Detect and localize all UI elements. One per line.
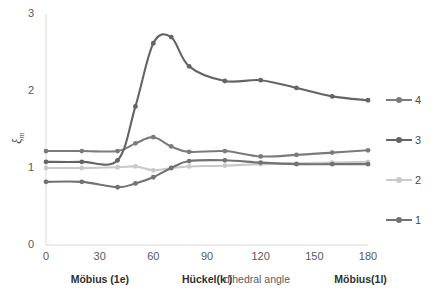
- data-point: [294, 153, 299, 158]
- data-point: [366, 148, 371, 153]
- data-point: [222, 163, 227, 168]
- y-tick-label: 3: [12, 7, 34, 19]
- data-point: [44, 179, 49, 184]
- data-point: [258, 160, 263, 165]
- x-tick-label: 30: [80, 250, 120, 262]
- series-3: [44, 34, 371, 165]
- y-tick-label: 2: [12, 84, 34, 96]
- series-4: [44, 135, 371, 159]
- x-tick-label: 0: [26, 250, 66, 262]
- data-point: [44, 166, 49, 171]
- legend-item-2[interactable]: 2: [386, 172, 421, 188]
- y-axis-label: ξm: [4, 118, 32, 158]
- x-tick-label: 90: [187, 250, 227, 262]
- y-tick-label: 0: [12, 238, 34, 250]
- data-point: [133, 164, 138, 169]
- data-point: [222, 79, 227, 84]
- data-point: [151, 175, 156, 180]
- data-point: [330, 162, 335, 167]
- data-point: [133, 181, 138, 186]
- data-point: [330, 150, 335, 155]
- data-point: [187, 64, 192, 69]
- data-point: [115, 149, 120, 154]
- data-point: [187, 164, 192, 169]
- data-point: [115, 185, 120, 190]
- data-point: [366, 162, 371, 167]
- data-point: [294, 162, 299, 167]
- legend-marker-icon: [396, 177, 402, 183]
- data-point: [366, 98, 371, 103]
- y-axis-label-symbol: ξ: [10, 139, 24, 144]
- data-point: [44, 149, 49, 154]
- data-point: [187, 159, 192, 164]
- legend-label: 4: [415, 95, 421, 106]
- data-point: [169, 166, 174, 171]
- x-tick-label: 150: [294, 250, 334, 262]
- legend-swatch-icon: [386, 95, 412, 105]
- legend-label: 3: [415, 135, 421, 146]
- legend-label: 1: [415, 215, 421, 226]
- legend-label: 2: [415, 175, 421, 186]
- chart-container: ξm 0123 0306090120150180 Möbius (1e)Hück…: [0, 0, 440, 300]
- series-line-3: [46, 34, 368, 165]
- x-tick-label: 120: [241, 250, 281, 262]
- data-point: [187, 149, 192, 154]
- data-point: [44, 159, 49, 164]
- data-point: [79, 166, 84, 171]
- data-point: [115, 158, 120, 163]
- axis-annotation: dihedral angle: [224, 273, 290, 285]
- axis-annotation: Möbius(1l): [334, 273, 387, 285]
- chart-legend: 4321: [386, 92, 440, 222]
- legend-swatch-icon: [386, 175, 412, 185]
- axis-annotation: Möbius (1e): [71, 273, 129, 285]
- data-point: [151, 168, 156, 173]
- legend-marker-icon: [396, 97, 402, 103]
- series-2: [44, 159, 371, 172]
- data-point: [222, 149, 227, 154]
- series-line-4: [46, 137, 368, 156]
- data-point: [151, 41, 156, 46]
- y-axis-label-text: ξm: [10, 118, 26, 158]
- data-point: [133, 104, 138, 109]
- data-point: [133, 141, 138, 146]
- legend-swatch-icon: [386, 215, 412, 225]
- data-point: [79, 179, 84, 184]
- data-point: [79, 159, 84, 164]
- data-point: [151, 135, 156, 140]
- legend-item-3[interactable]: 3: [386, 132, 421, 148]
- data-point: [258, 154, 263, 159]
- data-point: [222, 158, 227, 163]
- data-point: [169, 35, 174, 40]
- y-axis-label-subscript: m: [17, 133, 26, 139]
- data-point: [330, 94, 335, 99]
- data-point: [294, 86, 299, 91]
- x-tick-label: 60: [133, 250, 173, 262]
- data-point: [169, 144, 174, 149]
- legend-swatch-icon: [386, 135, 412, 145]
- data-point: [258, 78, 263, 83]
- y-tick-label: 1: [12, 161, 34, 173]
- legend-marker-icon: [396, 137, 402, 143]
- data-point: [79, 149, 84, 154]
- legend-marker-icon: [396, 217, 402, 223]
- legend-item-4[interactable]: 4: [386, 92, 421, 108]
- data-point: [115, 165, 120, 170]
- legend-item-1[interactable]: 1: [386, 212, 421, 228]
- x-tick-label: 180: [348, 250, 388, 262]
